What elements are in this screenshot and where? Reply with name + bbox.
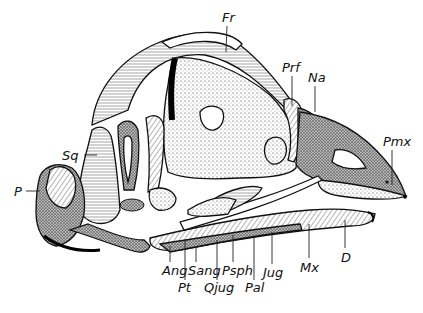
label-psph: Psph [222,263,253,278]
label-qjug: Qjug [204,280,234,295]
label-jug: Jug [260,265,283,280]
label-d: D [341,250,351,265]
label-pt: Pt [178,280,192,295]
label-sq: Sq [62,148,79,163]
label-pmx: Pmx [383,134,412,149]
label-fr: Fr [222,10,236,25]
label-ang: Ang [161,263,187,278]
label-pal: Pal [245,280,265,295]
label-prf: Prf [282,60,302,75]
label-na: Na [308,70,326,85]
skull-diagram: FrPrfNaPmxSqPDAngPtSangQjugPsphPalJugMx [0,0,423,313]
label-sang: Sang [188,263,221,278]
label-p: P [14,184,22,199]
premaxilla [296,112,407,199]
mandible [150,209,375,252]
label-mx: Mx [300,260,319,275]
